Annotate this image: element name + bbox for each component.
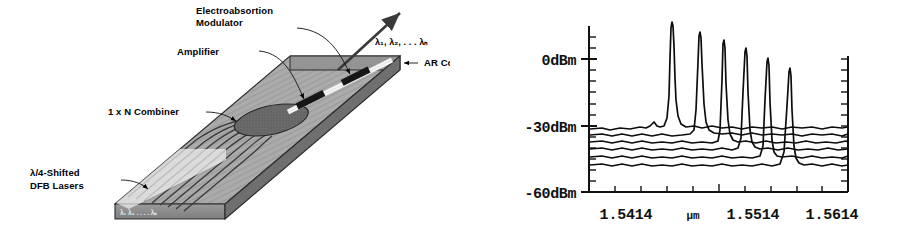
label-combiner: 1 x N Combiner xyxy=(108,106,179,117)
chip-body xyxy=(115,56,400,219)
spectrum-traces xyxy=(590,22,848,166)
trace-channel-6 xyxy=(590,68,848,166)
schematic-svg: Electroabsortion Modulator Amplifier 1 x… xyxy=(0,0,450,238)
figure-root: Electroabsortion Modulator Amplifier 1 x… xyxy=(0,0,897,238)
y-tick-label-minus60: -60dBm xyxy=(524,186,576,203)
trace-channel-2 xyxy=(590,32,848,136)
trace-channel-1 xyxy=(590,22,848,130)
x-tick-label-3: 1.5614 xyxy=(806,207,859,224)
x-tick-label-1: 1.5414 xyxy=(600,207,653,224)
schematic-diagram-panel: Electroabsortion Modulator Amplifier 1 x… xyxy=(0,0,450,238)
label-amplifier: Amplifier xyxy=(177,46,219,57)
spectrum-svg: 0dBm -30dBm -60dBm 1.5414 µm 1.5514 1.56… xyxy=(450,0,897,238)
label-lasers-line1: λ/4-Shifted xyxy=(30,167,80,178)
label-lasers-line2: DFB Lasers xyxy=(30,180,84,191)
label-ar-coating: AR Coating xyxy=(424,57,450,68)
x-tick-label-2: 1.5514 xyxy=(727,207,780,224)
y-tick-label-minus30: -30dBm xyxy=(524,120,576,137)
chart-axes xyxy=(589,26,848,192)
spectrum-chart-panel: 0dBm -30dBm -60dBm 1.5414 µm 1.5514 1.56… xyxy=(450,0,897,238)
y-minor-ticks-right xyxy=(841,59,848,181)
label-modulator-line2: Modulator xyxy=(196,17,243,28)
label-output-wavelengths: λ₁, λ₂, . . . λₙ xyxy=(375,37,428,47)
x-minor-ticks xyxy=(615,184,822,192)
x-axis-unit-label: µm xyxy=(686,210,700,222)
y-tick-label-0: 0dBm xyxy=(542,53,577,70)
label-modulator-line1: Electroabsortion xyxy=(196,5,273,16)
label-facet-wavelengths: λ₁ λ₂ . . . . λₙ xyxy=(120,209,157,216)
